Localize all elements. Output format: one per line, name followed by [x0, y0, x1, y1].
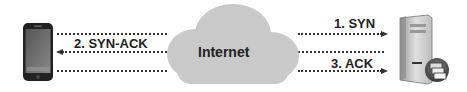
synack-line — [62, 51, 167, 53]
smartphone-icon — [22, 22, 54, 82]
message-label-synack: 2. SYN-ACK — [74, 36, 148, 51]
server-icon — [394, 14, 450, 86]
arrowhead-right-icon — [380, 67, 388, 75]
message-label-ack: 3. ACK — [331, 56, 373, 71]
syn-line-right — [298, 33, 382, 35]
message-label-syn: 1. SYN — [334, 16, 375, 31]
ack-line — [57, 70, 167, 72]
cloud-label: Internet — [198, 44, 249, 60]
syn-line — [57, 33, 167, 35]
synack-line-right — [298, 51, 384, 53]
arrowhead-right-icon — [380, 30, 388, 38]
arrowhead-left-icon — [56, 48, 64, 56]
